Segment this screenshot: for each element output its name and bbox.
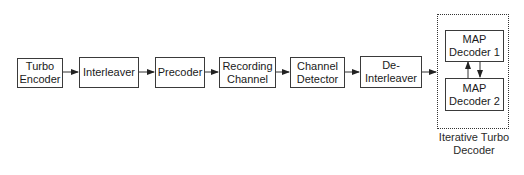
map-decoder-1-block: MAP Decoder 1 [445,30,504,62]
recording-channel-block: Recording Channel [219,57,276,88]
turbo-encoder-block: Turbo Encoder [17,58,63,88]
channel-detector-block: Channel Detector [290,57,345,88]
decoder-group-caption: Iterative Turbo Decoder [430,131,518,157]
de-interleaver-block: De- Interleaver [360,56,422,88]
map-decoder-2-block: MAP Decoder 2 [445,78,504,111]
precoder-block: Precoder [155,57,205,88]
interleaver-block: Interleaver [79,57,139,88]
